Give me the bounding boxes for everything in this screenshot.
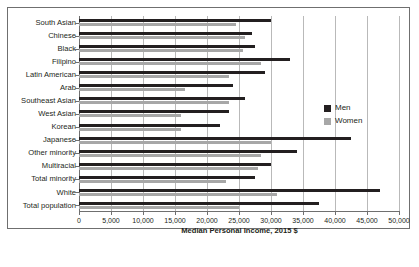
x-axis-tick-labels: 05,00010,00015,00020,00025,00030,00035,0…: [79, 216, 400, 226]
x-tick-0: [79, 211, 80, 215]
category-label: Multiracial: [10, 160, 76, 173]
bar-women: [79, 114, 181, 117]
x-tick-15000: [175, 211, 176, 215]
bar-women: [79, 128, 181, 131]
category-tick: [75, 62, 79, 63]
category-label: South Asian: [10, 16, 76, 29]
bar-women: [79, 167, 258, 170]
bar-men: [79, 110, 229, 113]
bar-women: [79, 193, 277, 196]
bar-row: [79, 29, 400, 42]
bar-women: [79, 154, 261, 157]
legend-item-men: Men: [324, 104, 386, 112]
bar-men: [79, 84, 233, 87]
x-tick-10000: [143, 211, 144, 215]
category-tick: [75, 179, 79, 180]
bar-row: [79, 199, 400, 212]
bar-women: [79, 88, 185, 91]
category-label: Total population: [10, 199, 76, 212]
bar-row: [79, 160, 400, 173]
x-tick-45000: [367, 211, 368, 215]
category-label: Latin American: [10, 68, 76, 81]
category-tick: [75, 140, 79, 141]
x-tick-40000: [335, 211, 336, 215]
category-label: Southeast Asian: [10, 94, 76, 107]
category-tick: [75, 153, 79, 154]
x-tick-20000: [207, 211, 208, 215]
x-tick-50000: [399, 211, 400, 215]
x-tick-label-5000: 5,000: [102, 216, 120, 226]
x-tick-label-15000: 15,000: [164, 216, 185, 226]
bar-row: [79, 173, 400, 186]
category-label: Japanese: [10, 134, 76, 147]
category-tick: [75, 23, 79, 24]
bar-men: [79, 71, 265, 74]
category-tick: [75, 101, 79, 102]
bar-row: [79, 68, 400, 81]
bar-men: [79, 19, 271, 22]
x-tick-35000: [303, 211, 304, 215]
category-label: Chinese: [10, 29, 76, 42]
bar-row: [79, 134, 400, 147]
category-label: Other minority: [10, 147, 76, 160]
bar-women: [79, 180, 226, 183]
chart-figure: South AsianChineseBlackFilipinoLatin Ame…: [7, 7, 410, 229]
category-tick: [75, 114, 79, 115]
x-tick-label-25000: 25,000: [228, 216, 249, 226]
bar-women: [79, 141, 271, 144]
bar-men: [79, 97, 245, 100]
x-axis-title: Median Personal Income, 2015 $: [79, 226, 400, 235]
x-tick-label-10000: 10,000: [132, 216, 153, 226]
bar-men: [79, 137, 351, 140]
bar-row: [79, 186, 400, 199]
bar-women: [79, 23, 236, 26]
category-label: Arab: [10, 81, 76, 94]
x-tick-30000: [271, 211, 272, 215]
x-tick-label-0: 0: [77, 216, 81, 226]
category-label: Black: [10, 42, 76, 55]
category-label: Korean: [10, 121, 76, 134]
category-tick: [75, 127, 79, 128]
bar-women: [79, 62, 261, 65]
bar-row: [79, 42, 400, 55]
x-tick-label-40000: 40,000: [324, 216, 345, 226]
bar-women: [79, 49, 243, 52]
legend-item-women: Women: [324, 117, 386, 125]
x-tick-25000: [239, 211, 240, 215]
bar-women: [79, 75, 229, 78]
category-label: White: [10, 186, 76, 199]
bar-men: [79, 150, 297, 153]
category-tick: [75, 205, 79, 206]
bar-men: [79, 163, 271, 166]
x-tick-label-50000: 50,000: [388, 216, 409, 226]
bar-men: [79, 58, 290, 61]
legend-label-men: Men: [335, 104, 351, 112]
category-tick: [75, 166, 79, 167]
bar-row: [79, 16, 400, 29]
bar-women: [79, 206, 239, 209]
bar-women: [79, 101, 229, 104]
bar-row: [79, 147, 400, 160]
bar-men: [79, 189, 380, 192]
bar-men: [79, 45, 255, 48]
bar-men: [79, 124, 220, 127]
legend-swatch-men-icon: [324, 105, 331, 112]
category-label: Filipino: [10, 55, 76, 68]
legend-swatch-women-icon: [324, 118, 331, 125]
category-axis-labels: South AsianChineseBlackFilipinoLatin Ame…: [10, 16, 76, 212]
category-tick: [75, 88, 79, 89]
x-tick-label-35000: 35,000: [292, 216, 313, 226]
category-label: West Asian: [10, 107, 76, 120]
bar-men: [79, 176, 255, 179]
x-tick-label-45000: 45,000: [356, 216, 377, 226]
category-label: Total minority: [10, 173, 76, 186]
x-tick-label-30000: 30,000: [260, 216, 281, 226]
bar-women: [79, 36, 245, 39]
category-tick: [75, 36, 79, 37]
category-tick: [75, 75, 79, 76]
x-tick-label-20000: 20,000: [196, 216, 217, 226]
category-tick: [75, 49, 79, 50]
legend-label-women: Women: [335, 117, 362, 125]
bar-men: [79, 202, 319, 205]
bar-row: [79, 81, 400, 94]
